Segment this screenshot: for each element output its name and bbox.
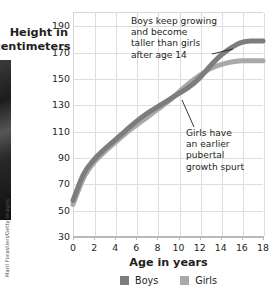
chart-legend: Boys Girls <box>73 274 264 287</box>
x-axis-title: Age in years <box>73 256 264 269</box>
x-tick-mark <box>221 236 222 240</box>
x-tick-mark <box>115 236 116 240</box>
x-tick-mark <box>157 236 158 240</box>
legend-swatch-girls <box>180 276 189 285</box>
x-tick-mark <box>136 236 137 240</box>
legend-label-boys: Boys <box>135 275 158 286</box>
legend-label-girls: Girls <box>195 275 217 286</box>
girls-annotation-leader <box>182 100 194 127</box>
x-tick-mark <box>179 236 180 240</box>
x-tick-mark <box>242 236 243 240</box>
boys-annotation: Boys keep growing and become taller than… <box>131 16 235 61</box>
growth-chart-figure: Maril Forastieri/Getty Images Height in … <box>0 0 277 289</box>
x-tick-mark <box>73 236 74 240</box>
x-tick-mark <box>200 236 201 240</box>
series-line-boys <box>73 41 263 201</box>
legend-item-boys[interactable]: Boys <box>120 275 158 286</box>
legend-item-girls[interactable]: Girls <box>180 275 217 286</box>
x-tick-mark <box>94 236 95 240</box>
legend-swatch-boys <box>120 276 129 285</box>
x-tick-mark <box>263 236 264 240</box>
girls-annotation: Girls have an earlier pubertal growth sp… <box>186 128 274 173</box>
